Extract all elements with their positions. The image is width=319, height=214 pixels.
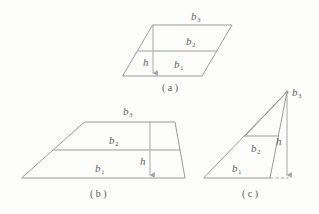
label-c-b2: b2 <box>251 143 260 154</box>
label-a-b2: b2 <box>186 36 195 47</box>
label-c-h: h <box>276 136 282 147</box>
label-b-b1: b1 <box>95 163 104 174</box>
label-a-b3: b3 <box>191 11 200 22</box>
caption-b: ( b ) <box>90 189 107 199</box>
label-a-b1: b1 <box>174 59 183 70</box>
caption-c: ( c ) <box>242 189 258 199</box>
label-c-b1: b1 <box>232 163 241 174</box>
geometry-figure: b3 b2 b1 h ( a ) b3 b2 b1 h ( b ) b3 b2 … <box>0 0 319 214</box>
label-a-h: h <box>143 57 149 68</box>
triangle-inner-edge <box>245 92 287 136</box>
label-b-b3: b3 <box>123 106 132 117</box>
label-c-b3: b3 <box>292 87 301 98</box>
triangle-apex-dot <box>285 90 288 93</box>
figure-svg <box>0 0 319 214</box>
label-b-b2: b2 <box>109 135 118 146</box>
caption-a: ( a ) <box>162 83 178 93</box>
label-b-h: h <box>140 156 146 167</box>
